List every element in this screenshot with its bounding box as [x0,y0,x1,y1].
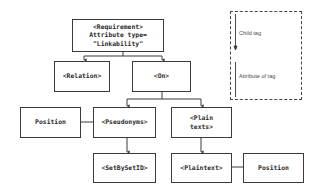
node-plaintext-label: <Plaintext> [180,164,222,173]
legend: Child tag Attribute of tag [230,11,302,100]
node-relation-label: <Relation> [63,72,101,81]
node-plaintext: <Plaintext> [171,153,232,183]
legend-attribute-label: Attribute of tag [239,73,275,79]
edge-requirement-children [84,51,162,60]
node-position-right: Position [243,153,304,183]
node-on: <On> [132,61,191,92]
node-pseudonyms-label: <Pseudonyms> [101,118,147,127]
node-on-label: <On> [154,72,169,81]
node-requirement-line-2: Attribute type= [89,31,147,40]
node-requirement: <Requirement> Attribute type= "Linkabili… [72,19,164,52]
node-position-right-label: Position [258,164,289,173]
node-setbysetid: <SetBySetID> [93,153,156,183]
legend-lines [230,11,302,100]
node-requirement-line-1: <Requirement> [93,23,143,32]
node-requirement-line-3: "Linkability" [93,40,143,49]
edge-on-children [127,91,201,106]
node-relation: <Relation> [54,61,110,92]
node-plain-texts-line-2: texts> [190,123,213,132]
legend-child-tag-label: Child tag [239,30,261,36]
node-pseudonyms: <Pseudonyms> [93,107,156,138]
node-plain-texts: <Plain texts> [171,107,232,138]
node-setbysetid-label: <SetBySetID> [101,164,147,173]
diagram-canvas: <Requirement> Attribute type= "Linkabili… [0,0,317,193]
node-plain-texts-line-1: <Plain [190,114,213,123]
node-position-left-label: Position [35,118,66,127]
node-position-left: Position [20,107,81,138]
